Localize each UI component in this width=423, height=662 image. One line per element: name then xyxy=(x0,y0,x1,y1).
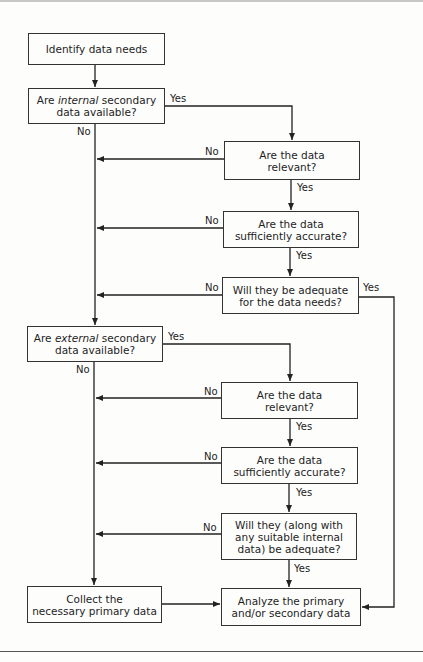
node-internal-accurate: Are the data sufficiently accurate? xyxy=(223,211,359,248)
label-no-ext-accurate: No xyxy=(204,451,218,462)
label-yes-int-relevant: Yes xyxy=(297,182,313,193)
label-no-int-accurate: No xyxy=(205,215,219,226)
node-identify-data-needs: Identify data needs xyxy=(28,33,165,65)
node-internal-adequate: Will they be adequate for the data needs… xyxy=(222,277,359,314)
label-yes-internal: Yes xyxy=(170,93,186,104)
label-yes-int-adequate: Yes xyxy=(363,282,379,293)
label-no-int-relevant: No xyxy=(205,146,219,157)
label-yes-ext-adequate: Yes xyxy=(294,563,310,574)
node-collect-primary-data: Collect the necessary primary data xyxy=(27,586,162,623)
node-external-accurate: Are the data sufficiently accurate? xyxy=(221,447,358,484)
node-analyze-data: Analyze the primary and/or secondary dat… xyxy=(221,588,361,626)
bottom-rule xyxy=(0,651,423,652)
node-internal-relevant: Are the data relevant? xyxy=(224,141,360,180)
node-external-adequate: Will they (along with any suitable inter… xyxy=(221,513,357,560)
node-external-available: Are external secondary data available? xyxy=(27,326,163,362)
label-yes-int-accurate: Yes xyxy=(296,250,312,261)
label-no-ext-relevant: No xyxy=(204,386,218,397)
label-no-external: No xyxy=(76,364,90,375)
node-external-relevant: Are the data relevant? xyxy=(221,382,358,419)
label-no-internal: No xyxy=(77,126,91,137)
label-no-int-adequate: No xyxy=(205,282,219,293)
label-no-ext-adequate: No xyxy=(203,522,217,533)
node-internal-available: Are internal secondary data available? xyxy=(28,88,165,124)
label-yes-ext-relevant: Yes xyxy=(296,421,312,432)
label-yes-ext-accurate: Yes xyxy=(296,487,312,498)
label-yes-external: Yes xyxy=(168,331,184,342)
